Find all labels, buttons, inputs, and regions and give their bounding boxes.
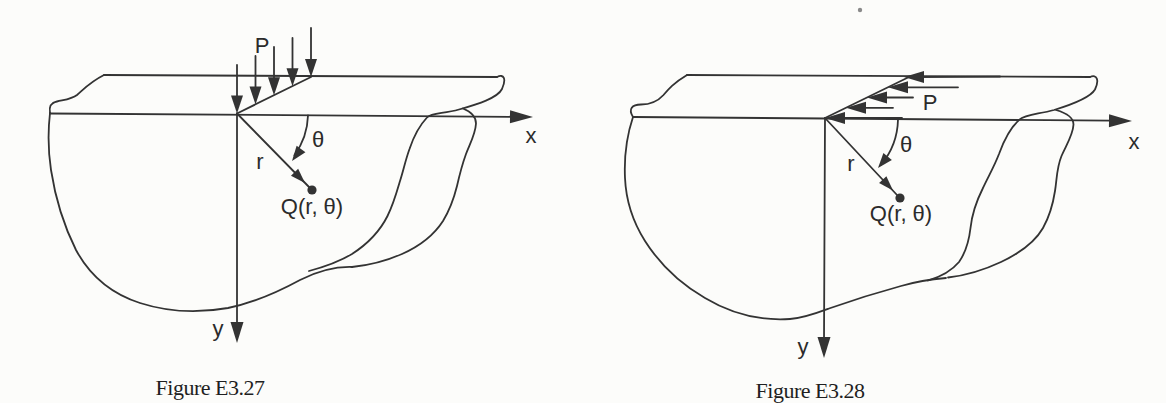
load-label: P — [255, 33, 270, 58]
surface-back-edge — [687, 75, 1090, 77]
surface-right-torn-edge-far — [309, 76, 504, 271]
y-axis-arrowhead — [818, 337, 831, 358]
load-arrowhead — [904, 71, 924, 83]
x-axis-line — [50, 114, 512, 117]
figure-e327: x y — [49, 28, 537, 400]
load-arrow — [250, 56, 262, 104]
scanned-page: x y — [0, 0, 1166, 403]
surface-left-torn-edge — [631, 75, 687, 117]
theta-arc-arrowhead — [874, 153, 892, 172]
x-axis-arrowhead — [1109, 114, 1132, 127]
load-label: P — [923, 90, 938, 115]
load-arrow — [305, 28, 317, 77]
y-axis-arrowhead — [231, 322, 244, 343]
load-arrow — [904, 71, 1000, 83]
load-arrow — [287, 38, 299, 86]
figure-caption: Figure E3.28 — [756, 378, 865, 403]
radius-label: r — [256, 149, 263, 174]
load-arrow — [268, 47, 280, 95]
radius-label: r — [847, 151, 854, 176]
point-q-label: Q(r, θ) — [870, 201, 932, 226]
y-axis-line — [824, 118, 825, 341]
load-arrowhead — [305, 59, 317, 77]
x-axis-label: x — [526, 123, 537, 148]
surface-right-torn-edge-near — [948, 110, 1074, 278]
x-axis-label: x — [1129, 129, 1140, 154]
figure-pair-canvas: x y — [0, 0, 1166, 403]
surface-right-torn-edge-near — [352, 109, 476, 268]
load-arrow — [825, 112, 902, 124]
surface-right-torn-edge-far — [928, 76, 1097, 280]
load-arrow — [231, 65, 243, 114]
point-q-label: Q(r, θ) — [281, 194, 343, 219]
scan-speck — [858, 8, 862, 12]
theta-label: θ — [900, 132, 912, 157]
surface-back-edge — [104, 75, 497, 77]
y-axis-label: y — [213, 316, 224, 341]
figure-caption: Figure E3.27 — [156, 375, 265, 400]
y-axis-label: y — [798, 334, 809, 359]
surface-left-torn-edge — [50, 75, 104, 113]
theta-arc-arrowhead — [288, 146, 306, 165]
theta-label: θ — [312, 127, 324, 152]
x-axis-arrowhead — [510, 110, 533, 123]
figure-e328: x y — [625, 8, 1140, 403]
